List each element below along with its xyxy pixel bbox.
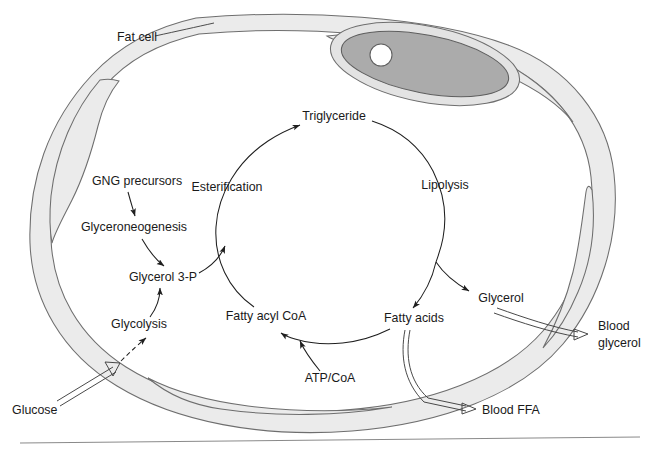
- label-blood-glycerol-line1: Blood: [598, 319, 630, 333]
- blood-glycerol-arrowhead: [574, 329, 588, 340]
- arrow-glycolysis-to-glycerol3p: [150, 288, 160, 317]
- label-triglyceride: Triglyceride: [302, 109, 366, 123]
- label-esterification: Esterification: [192, 180, 263, 194]
- glucose-transport-arrow-line-b: [60, 372, 116, 406]
- label-glucose: Glucose: [12, 403, 58, 417]
- label-atp-coa: ATP/CoA: [305, 371, 356, 385]
- label-fatty-acyl-coa: Fatty acyl CoA: [226, 309, 307, 323]
- label-fatty-acids: Fatty acids: [384, 311, 444, 325]
- cytoplasm-bulge-upper-left: [50, 79, 119, 243]
- arrow-gng-to-glyceroneogenesis: [128, 192, 135, 216]
- arc-fatty-acids-to-fatty-acyl-coa: [281, 329, 390, 344]
- caption-divider: [20, 437, 640, 443]
- figure-root: Fat cell GNG precursors Glyceroneogenesi…: [0, 0, 654, 458]
- nucleolus: [370, 44, 392, 66]
- fat-cell-diagram: Fat cell GNG precursors Glyceroneogenesi…: [0, 0, 654, 458]
- arrow-atpcoa-to-fatty-acyl-coa: [300, 341, 320, 371]
- label-lipolysis: Lipolysis: [421, 178, 469, 192]
- label-blood-ffa: Blood FFA: [482, 403, 541, 417]
- label-glycolysis: Glycolysis: [111, 317, 167, 331]
- label-glycerol: Glycerol: [478, 291, 523, 305]
- arrow-lipolysis-to-glycerol: [436, 262, 469, 291]
- label-gng-precursors: GNG precursors: [92, 174, 182, 188]
- arc-esterification: [216, 125, 300, 307]
- label-blood-glycerol-line2: glycerol: [598, 336, 641, 350]
- glucose-transport-arrow-line-a: [57, 367, 113, 401]
- arrow-glycerol3p-to-esterification: [199, 246, 225, 273]
- label-fat-cell: Fat cell: [117, 30, 157, 44]
- arrow-glucose-to-glycolysis: [121, 338, 146, 361]
- label-glyceroneogenesis: Glyceroneogenesis: [81, 220, 187, 234]
- arrow-lipolysis-to-fatty-acids: [413, 262, 436, 308]
- arrow-glyceroneogenesis-to-glycerol3p: [142, 239, 164, 266]
- label-glycerol-3p: Glycerol 3-P: [129, 270, 197, 284]
